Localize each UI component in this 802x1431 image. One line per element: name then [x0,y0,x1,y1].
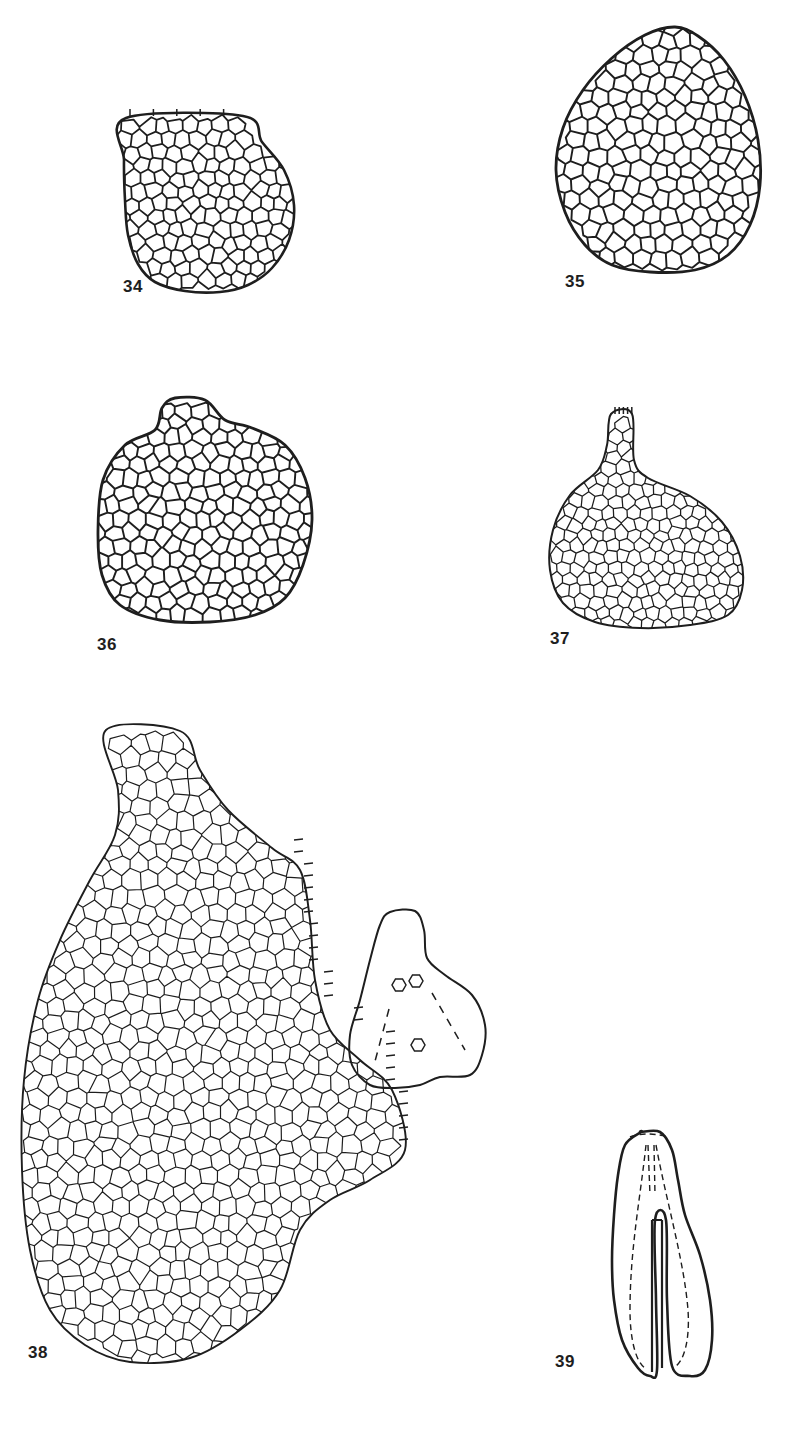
figure-label-34: 34 [123,277,143,297]
figure-39-leaf-drawing [612,1131,712,1378]
figure-label-35: 35 [565,272,585,292]
hexagonal-cell [411,1039,425,1051]
figure-label-39: 39 [555,1352,575,1372]
figure-38-cross-section-drawing [349,909,485,1088]
dashed-vein [432,993,465,1050]
figure-37-leaf-drawing [549,407,745,632]
hexagonal-cell [409,975,423,987]
hexagonal-cell [392,979,406,991]
figure-label-37: 37 [550,629,570,649]
figure-plate [0,0,802,1431]
figure-34-leaf-drawing [117,109,298,293]
figure-35-leaf-drawing [554,17,762,272]
figure-label-36: 36 [97,635,117,655]
figure-label-38: 38 [28,1343,48,1363]
dashed-vein [374,1009,389,1065]
figure-36-leaf-drawing [91,397,315,627]
